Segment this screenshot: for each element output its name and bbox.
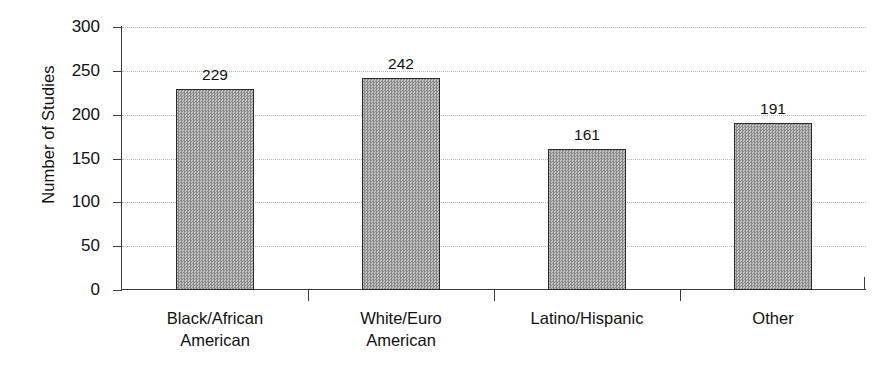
x-category-label: Latino/Hispanic [492,307,682,329]
y-tick-mark [113,115,121,116]
bar [548,149,626,290]
x-category-label: White/EuroAmerican [306,307,496,351]
y-axis-title: Number of Studies [39,15,58,255]
bar-chart: Number of Studies 050100150200250300 229… [0,0,883,383]
y-tick-label: 50 [36,237,100,254]
y-tick-label: 250 [36,62,100,79]
y-tick-label: 200 [36,106,100,123]
x-category-separator [308,290,309,301]
gridline [122,27,866,28]
y-tick-mark [113,202,121,203]
y-tick-mark [113,71,121,72]
y-tick-mark [113,27,121,28]
x-category-label: Black/AfricanAmerican [120,307,310,351]
y-tick-mark [113,159,121,160]
bar-value-label: 242 [361,56,441,72]
y-tick-mark [113,290,121,291]
y-tick-label: 100 [36,193,100,210]
x-category-separator [680,290,681,301]
bar [176,89,254,290]
bar [362,78,440,290]
y-tick-label: 150 [36,150,100,167]
y-tick-mark [113,246,121,247]
x-category-label: Other [678,307,868,329]
bar-value-label: 161 [547,127,627,143]
x-category-separator [494,290,495,301]
bar-value-label: 229 [175,67,255,83]
y-tick-label: 0 [36,281,100,298]
bar-value-label: 191 [733,101,813,117]
bar [734,123,812,290]
y-tick-label: 300 [36,18,100,35]
